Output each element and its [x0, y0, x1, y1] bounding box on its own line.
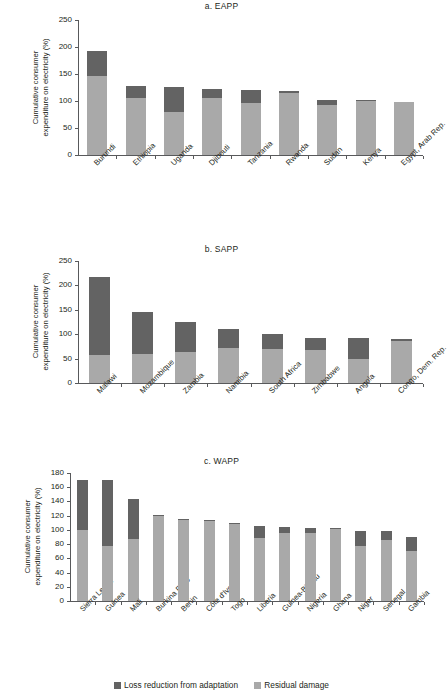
x-tick-mark: [298, 602, 299, 605]
bar-segment-loss-reduction: [132, 312, 153, 353]
y-tick-label: 120: [36, 512, 64, 520]
x-tick-mark: [164, 384, 165, 387]
bar-segment-residual-damage: [279, 533, 290, 601]
y-tick-mark: [75, 285, 78, 286]
bar-segment-residual-damage: [406, 551, 417, 601]
bar-segment-loss-reduction: [87, 51, 107, 76]
x-tick-mark: [423, 156, 424, 159]
bar-eapp-7: [356, 100, 376, 155]
bar-segment-residual-damage: [305, 533, 316, 601]
y-tick-mark: [67, 573, 70, 574]
bar-wapp-3: [153, 515, 164, 601]
y-tick-label: 50: [44, 124, 72, 132]
x-tick-mark: [207, 384, 208, 387]
x-tick-mark: [373, 602, 374, 605]
y-axis-label-line2: expenditure on electricity (%): [32, 458, 42, 616]
y-axis-label-wapp: Cumulative consumerexpenditure on electr…: [23, 458, 42, 616]
y-axis-label-line1: Cumulative consumer: [23, 458, 33, 616]
x-tick-mark: [146, 602, 147, 605]
y-axis-line-sapp: [78, 261, 79, 384]
chart-panel-sapp: b. SAPP Cumulative consumerexpenditure o…: [0, 243, 443, 453]
x-tick-mark: [385, 156, 386, 159]
legend-label-residual-damage: Residual damage: [264, 680, 329, 690]
bar-sapp-0: [89, 277, 110, 383]
y-tick-mark: [75, 310, 78, 311]
y-tick-label: 160: [36, 483, 64, 491]
plot-area-eapp: Cumulative consumerexpenditure on electr…: [0, 12, 443, 238]
x-tick-mark: [196, 602, 197, 605]
y-tick-label: 200: [44, 43, 72, 51]
y-tick-label: 200: [44, 281, 72, 289]
y-axis-label-sapp: Cumulative consumerexpenditure on electr…: [31, 246, 50, 398]
bar-wapp-5: [204, 520, 215, 601]
y-tick-label: 180: [36, 469, 64, 477]
bar-eapp-5: [279, 91, 299, 155]
legend-label-loss-reduction: Loss reduction from adaptation: [124, 680, 238, 690]
y-tick-mark: [67, 473, 70, 474]
bar-segment-residual-damage: [356, 101, 376, 155]
y-tick-mark: [75, 101, 78, 102]
y-tick-label: 80: [36, 540, 64, 548]
bar-wapp-1: [102, 480, 113, 601]
bar-segment-residual-damage: [355, 546, 366, 601]
chart-panel-eapp: a. EAPP Cumulative consumerexpenditure o…: [0, 0, 443, 238]
x-tick-mark: [380, 384, 381, 387]
x-tick-mark: [346, 156, 347, 159]
bar-segment-residual-damage: [202, 98, 222, 155]
bar-segment-residual-damage: [153, 516, 164, 601]
bar-wapp-0: [77, 480, 88, 601]
bar-eapp-1: [126, 86, 146, 155]
bar-segment-loss-reduction: [305, 338, 326, 350]
chart-legend: Loss reduction from adaptation Residual …: [0, 680, 443, 690]
bar-wapp-7: [254, 526, 265, 601]
bar-segment-loss-reduction: [126, 86, 146, 98]
y-tick-label: 60: [36, 554, 64, 562]
bar-segment-residual-damage: [241, 103, 261, 155]
y-axis-line-wapp: [70, 473, 71, 602]
x-tick-mark: [247, 602, 248, 605]
y-tick-mark: [67, 516, 70, 517]
bar-segment-residual-damage: [254, 538, 265, 601]
bar-segment-loss-reduction: [241, 90, 261, 104]
y-tick-label: 40: [36, 569, 64, 577]
x-tick-mark: [121, 384, 122, 387]
legend-item-loss-reduction: Loss reduction from adaptation: [114, 680, 238, 690]
bar-segment-residual-damage: [102, 546, 113, 601]
bar-segment-loss-reduction: [406, 537, 417, 551]
y-axis-line-eapp: [78, 20, 79, 156]
x-tick-mark: [231, 156, 232, 159]
bar-wapp-9: [305, 528, 316, 601]
x-tick-mark: [294, 384, 295, 387]
x-tick-mark: [270, 156, 271, 159]
plot-area-wapp: Cumulative consumerexpenditure on electr…: [0, 467, 443, 670]
y-tick-label: 100: [44, 97, 72, 105]
y-tick-mark: [75, 128, 78, 129]
loss-reduction-swatch: [114, 682, 121, 689]
y-tick-mark: [67, 587, 70, 588]
y-tick-mark: [75, 334, 78, 335]
y-tick-label: 100: [36, 526, 64, 534]
x-tick-mark: [337, 384, 338, 387]
bar-segment-residual-damage: [178, 520, 189, 601]
bar-wapp-8: [279, 527, 290, 601]
x-tick-mark: [399, 602, 400, 605]
x-tick-mark: [222, 602, 223, 605]
bar-wapp-12: [381, 531, 392, 601]
bar-wapp-6: [229, 523, 240, 601]
bar-segment-loss-reduction: [254, 526, 265, 538]
y-tick-label: 20: [36, 583, 64, 591]
x-tick-mark: [95, 602, 96, 605]
x-tick-mark: [423, 384, 424, 387]
bar-segment-loss-reduction: [355, 531, 366, 546]
y-tick-label: 0: [44, 151, 72, 159]
x-tick-mark: [308, 156, 309, 159]
bar-segment-loss-reduction: [348, 338, 369, 358]
y-tick-mark: [75, 359, 78, 360]
y-tick-mark: [75, 74, 78, 75]
y-tick-mark: [67, 544, 70, 545]
bar-eapp-3: [202, 89, 222, 155]
x-tick-mark: [121, 602, 122, 605]
x-tick-mark: [272, 602, 273, 605]
panel-title-wapp: c. WAPP: [0, 455, 443, 467]
